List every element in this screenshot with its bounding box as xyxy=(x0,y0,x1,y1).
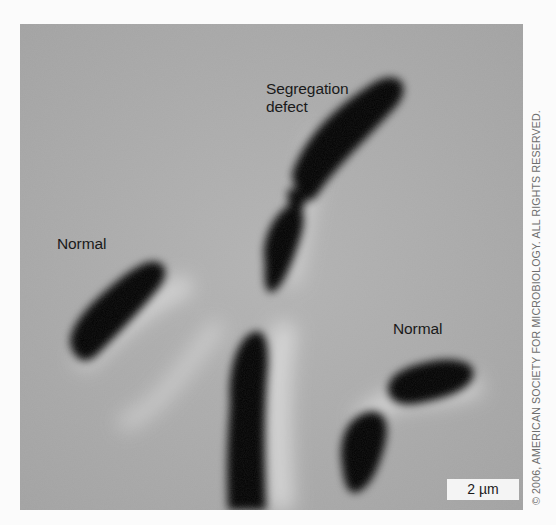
label-normal-left: Normal xyxy=(57,235,106,253)
label-line-1: Segregation xyxy=(266,80,349,98)
copyright-notice: © 2006, AMERICAN SOCIETY FOR MICROBIOLOG… xyxy=(530,110,542,505)
scale-bar: 2 µm xyxy=(447,479,519,500)
micrograph: Segregation defect Normal Normal 2 µm xyxy=(20,24,523,510)
label-line-2: defect xyxy=(266,98,349,116)
label-segregation-defect: Segregation defect xyxy=(266,80,349,116)
label-normal-right: Normal xyxy=(393,320,442,338)
